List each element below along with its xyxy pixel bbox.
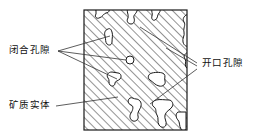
closed-pore-circle — [126, 56, 134, 64]
open-pore-right-upper — [183, 14, 189, 46]
label-open-pores: 开口孔隙 — [202, 57, 243, 68]
figure-svg — [0, 0, 254, 139]
label-mineral-solid: 矿质实体 — [9, 99, 50, 110]
label-closed-pores: 闭合孔隙 — [9, 44, 50, 55]
